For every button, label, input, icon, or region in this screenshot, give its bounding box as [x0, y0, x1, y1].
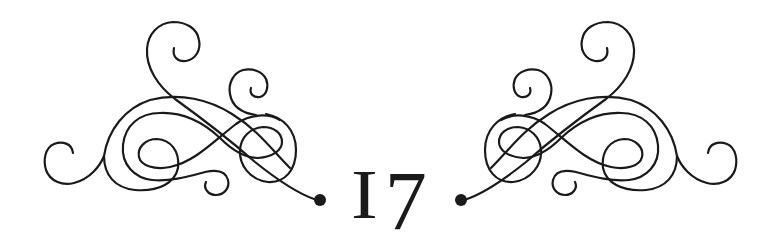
chapter-number: I7	[340, 148, 442, 232]
flourish-right-icon	[455, 22, 736, 206]
flourish-left-icon	[45, 22, 326, 206]
chapter-number-digit-one: I	[351, 160, 380, 230]
chapter-number-digit-seven: 7	[385, 160, 429, 244]
